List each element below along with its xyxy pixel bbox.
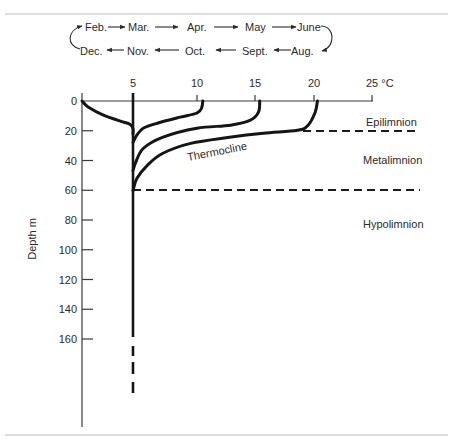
y-tick-label: 140 [59, 303, 77, 315]
y-tick-label: 100 [59, 244, 77, 256]
y-tick-label: 20 [65, 125, 77, 137]
metalimnion-label: Metalimnion [363, 154, 422, 166]
month-label: Aug. [291, 45, 314, 57]
y-tick-label: 120 [59, 274, 77, 286]
month-label: May [245, 21, 266, 33]
temperature-profiles [82, 93, 317, 393]
y-tick-label: 60 [65, 184, 77, 196]
x-tick-label: 10 [191, 77, 203, 89]
month-label: Feb. [85, 21, 107, 33]
temperature-profile-curve [82, 101, 133, 134]
month-label: Oct. [185, 45, 205, 57]
axes: 5 10 15 20 25 °C 020406080100120140160 D… [26, 77, 394, 427]
y-ticks: 020406080100120140160 [59, 95, 93, 345]
lake-temperature-diagram: Feb. Mar. Apr. May June Dec. Nov. Oct. S… [0, 0, 453, 444]
curved-arrow-icon [321, 26, 332, 51]
x-tick-label: 20 [308, 77, 320, 89]
epilimnion-label: Epilimnion [366, 116, 417, 128]
month-label: Apr. [187, 21, 207, 33]
hypolimnion-label: Hypolimnion [363, 218, 424, 230]
y-tick-label: 80 [65, 214, 77, 226]
y-tick-label: 40 [65, 155, 77, 167]
x-tick-label: 15 [249, 77, 261, 89]
month-label: Mar. [128, 21, 149, 33]
y-axis-label: Depth m [26, 218, 38, 260]
month-label: Nov. [127, 45, 149, 57]
month-cycle: Feb. Mar. Apr. May June Dec. Nov. Oct. S… [70, 21, 332, 57]
month-label: Sept. [242, 45, 268, 57]
month-label: June [297, 21, 321, 33]
y-tick-label: 160 [59, 333, 77, 345]
x-tick-label: 5 [130, 77, 136, 89]
month-label: Dec. [80, 45, 103, 57]
y-tick-label: 0 [71, 95, 77, 107]
x-tick-label: 25 °C [366, 77, 394, 89]
